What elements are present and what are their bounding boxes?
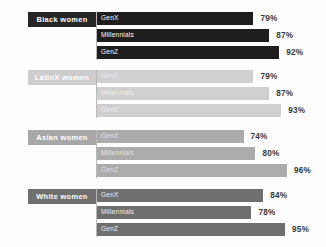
bar-series-label: GenX <box>101 192 119 199</box>
bar-value-label: 84% <box>270 189 287 202</box>
bars-container: GenX74%Millennials80%GenZ96% <box>96 130 326 181</box>
bar-value-label: 74% <box>251 130 268 143</box>
bar-millennials: Millennials <box>97 29 269 42</box>
bar-series-label: GenX <box>101 133 119 140</box>
bar-value-label: 96% <box>294 164 311 177</box>
bar-value-label: 87% <box>276 29 293 42</box>
bar-group: White womenGenX84%Millennials78%GenZ95% <box>0 189 326 240</box>
bar-value-label: 87% <box>276 87 293 100</box>
bar-row: GenX79% <box>96 12 326 25</box>
bar-row: GenZ93% <box>96 104 326 117</box>
bar-group: Black womenGenX79%Millennials87%GenZ92% <box>0 12 326 63</box>
bar-series-label: Millennials <box>101 32 134 39</box>
bar-series-label: Millennials <box>101 90 134 97</box>
bar-row: GenZ95% <box>96 223 326 236</box>
bar-genx: GenX <box>97 12 253 25</box>
bar-value-label: 93% <box>288 104 305 117</box>
bar-genz: GenZ <box>97 164 287 177</box>
bars-container: GenX79%Millennials87%GenZ93% <box>96 70 326 121</box>
bar-genz: GenZ <box>97 223 285 236</box>
bar-row: Millennials87% <box>96 87 326 100</box>
group-label-2: LatinX women <box>28 70 96 85</box>
bar-row: GenX84% <box>96 189 326 202</box>
bars-container: GenX79%Millennials87%GenZ92% <box>96 12 326 63</box>
bar-row: Millennials78% <box>96 206 326 219</box>
bar-series-label: GenX <box>101 15 119 22</box>
bar-series-label: GenZ <box>101 107 118 114</box>
bar-row: GenX79% <box>96 70 326 83</box>
bar-value-label: 95% <box>292 223 309 236</box>
bar-row: GenX74% <box>96 130 326 143</box>
bar-value-label: 79% <box>260 70 277 83</box>
bar-series-label: GenX <box>101 73 119 80</box>
bar-genx: GenX <box>97 70 253 83</box>
bar-series-label: Millennials <box>101 150 134 157</box>
bar-genx: GenX <box>97 130 244 143</box>
group-label-3: Asian women <box>28 130 96 145</box>
bar-series-label: Millennials <box>101 209 134 216</box>
bar-value-label: 80% <box>262 147 279 160</box>
bar-value-label: 92% <box>286 46 303 59</box>
bar-row: Millennials87% <box>96 29 326 42</box>
bar-row: GenZ92% <box>96 46 326 59</box>
bar-series-label: GenZ <box>101 49 118 56</box>
bar-series-label: GenZ <box>101 167 118 174</box>
bar-millennials: Millennials <box>97 206 251 219</box>
bar-millennials: Millennials <box>97 147 255 160</box>
bar-series-label: GenZ <box>101 226 118 233</box>
bar-genz: GenZ <box>97 46 279 59</box>
bar-genz: GenZ <box>97 104 281 117</box>
bar-group: LatinX womenGenX79%Millennials87%GenZ93% <box>0 70 326 121</box>
group-label-4: White women <box>28 189 96 204</box>
bar-row: GenZ96% <box>96 164 326 177</box>
bar-group: Asian womenGenX74%Millennials80%GenZ96% <box>0 130 326 181</box>
bar-row: Millennials80% <box>96 147 326 160</box>
grouped-bar-chart: Black womenGenX79%Millennials87%GenZ92%L… <box>0 0 326 247</box>
bar-genx: GenX <box>97 189 263 202</box>
bar-value-label: 79% <box>260 12 277 25</box>
group-label-1: Black women <box>28 12 96 27</box>
bar-value-label: 78% <box>258 206 275 219</box>
bars-container: GenX84%Millennials78%GenZ95% <box>96 189 326 240</box>
bar-millennials: Millennials <box>97 87 269 100</box>
